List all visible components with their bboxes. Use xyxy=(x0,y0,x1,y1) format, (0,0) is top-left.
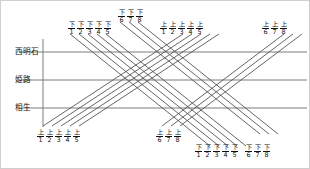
train-label-上6: 上6 xyxy=(156,129,163,144)
train-number: 3 xyxy=(86,29,93,36)
train-label-下8: 下8 xyxy=(136,9,143,24)
train-number: 4 xyxy=(64,137,71,144)
train-label-group-top-up-1-5: 上1上2上3上4上5 xyxy=(160,21,203,36)
train-label-上3: 上3 xyxy=(55,129,62,144)
train-label-group-top-down-1-5: 下1下2下3下4下5 xyxy=(68,21,111,36)
train-number: 3 xyxy=(213,152,220,159)
train-number: 1 xyxy=(160,29,167,36)
train-path-下8 xyxy=(138,22,278,134)
train-number: 5 xyxy=(196,29,203,36)
train-number: 7 xyxy=(271,29,278,36)
train-number: 4 xyxy=(222,152,229,159)
train-label-下3: 下3 xyxy=(86,21,93,36)
train-label-上8: 上8 xyxy=(280,21,287,36)
train-label-上7: 上7 xyxy=(271,21,278,36)
train-number: 1 xyxy=(37,137,44,144)
train-label-上4: 上4 xyxy=(64,129,71,144)
train-number: 3 xyxy=(178,29,185,36)
train-label-下3: 下3 xyxy=(213,144,220,159)
train-label-下2: 下2 xyxy=(204,144,211,159)
train-label-上2: 上2 xyxy=(46,129,53,144)
train-number: 2 xyxy=(46,137,53,144)
train-label-下4: 下4 xyxy=(95,21,102,36)
train-number: 1 xyxy=(68,29,75,36)
train-label-group-top-down-6-8: 下6下7下8 xyxy=(118,9,143,24)
train-path-下7 xyxy=(129,22,269,134)
train-number: 5 xyxy=(231,152,238,159)
train-path-下6 xyxy=(120,22,260,134)
train-number: 4 xyxy=(187,29,194,36)
train-label-下5: 下5 xyxy=(104,21,111,36)
train-number: 7 xyxy=(165,137,172,144)
station-label-nishi-akashi: 西明石 xyxy=(15,45,40,56)
station-label-aioi: 相生 xyxy=(15,101,31,112)
train-number: 4 xyxy=(95,29,102,36)
train-number: 6 xyxy=(156,137,163,144)
train-number: 8 xyxy=(263,152,270,159)
train-path-下1 xyxy=(70,34,210,146)
train-label-上1: 上1 xyxy=(37,129,44,144)
train-label-group-top-up-6-8: 上6上7上8 xyxy=(262,21,287,36)
train-label-row: 下6下7下8 xyxy=(118,9,143,24)
train-number: 2 xyxy=(204,152,211,159)
train-number: 7 xyxy=(127,17,134,24)
train-number: 8 xyxy=(174,137,181,144)
train-label-row: 上1上2上3上4上5 xyxy=(37,129,80,144)
train-label-上6: 上6 xyxy=(262,21,269,36)
train-label-上7: 上7 xyxy=(165,129,172,144)
train-number: 6 xyxy=(245,152,252,159)
train-label-下1: 下1 xyxy=(195,144,202,159)
train-number: 2 xyxy=(169,29,176,36)
train-path-下2 xyxy=(79,34,219,146)
train-number: 3 xyxy=(55,137,62,144)
train-label-上8: 上8 xyxy=(174,129,181,144)
train-number: 2 xyxy=(77,29,84,36)
train-label-下7: 下7 xyxy=(254,144,261,159)
train-number: 5 xyxy=(73,137,80,144)
train-label-group-bottom-down-1-5: 下1下2下3下4下5 xyxy=(195,144,238,159)
train-label-下5: 下5 xyxy=(231,144,238,159)
train-number: 7 xyxy=(254,152,261,159)
train-label-下6: 下6 xyxy=(245,144,252,159)
train-label-上5: 上5 xyxy=(73,129,80,144)
train-label-上2: 上2 xyxy=(169,21,176,36)
diagram-frame: 西明石 姫路 相生 下1下2下3下4下5下6下7下8上1上2上3上4上5上6上7… xyxy=(0,0,310,169)
train-label-row: 下1下2下3下4下5 xyxy=(195,144,238,159)
train-label-row: 上1上2上3上4上5 xyxy=(160,21,203,36)
train-label-下7: 下7 xyxy=(127,9,134,24)
train-label-下2: 下2 xyxy=(77,21,84,36)
train-number: 5 xyxy=(104,29,111,36)
train-label-上3: 上3 xyxy=(178,21,185,36)
train-label-row: 上6上7上8 xyxy=(156,129,181,144)
train-number: 8 xyxy=(136,17,143,24)
train-label-row: 下1下2下3下4下5 xyxy=(68,21,111,36)
train-number: 6 xyxy=(118,17,125,24)
train-label-上1: 上1 xyxy=(160,21,167,36)
train-label-下8: 下8 xyxy=(263,144,270,159)
train-label-下4: 下4 xyxy=(222,144,229,159)
train-label-group-bottom-up-6-8: 上6上7上8 xyxy=(156,129,181,144)
train-label-group-bottom-up-1-5: 上1上2上3上4上5 xyxy=(37,129,80,144)
train-label-上5: 上5 xyxy=(196,21,203,36)
train-label-下6: 下6 xyxy=(118,9,125,24)
train-number: 1 xyxy=(195,152,202,159)
train-label-row: 上6上7上8 xyxy=(262,21,287,36)
train-number: 8 xyxy=(280,29,287,36)
train-label-下1: 下1 xyxy=(68,21,75,36)
train-label-group-bottom-down-6-8: 下6下7下8 xyxy=(245,144,270,159)
train-label-上4: 上4 xyxy=(187,21,194,36)
train-number: 6 xyxy=(262,29,269,36)
train-path-lines xyxy=(43,22,302,146)
station-label-himeji: 姫路 xyxy=(15,73,31,84)
train-label-row: 下6下7下8 xyxy=(245,144,270,159)
